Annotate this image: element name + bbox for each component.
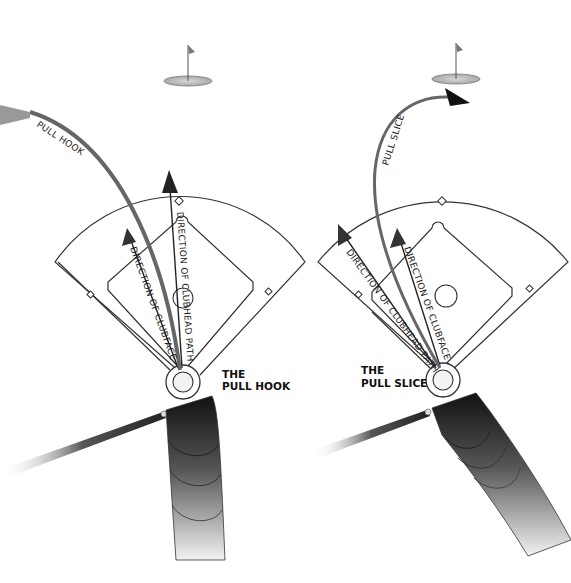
panel-title-line2: PULL HOOK [222,380,291,392]
panel-title-line2: PULL SLICE [361,377,427,389]
pull-slice-panel: PULL SLICE DIRECTION OF CLUBFACE DIRECTI… [313,43,571,556]
golf-club-icon [313,393,571,556]
clubhead-path-label: DIRECTION OF CLUBHEAD PATH [175,211,195,361]
panel-title-line1: THE [222,368,245,380]
golf-club-icon [0,396,225,560]
ball-flight-curve [0,105,180,370]
golf-shot-diagram: PULL HOOK DIRECTION OF CLUBFACE DIRECTIO… [0,0,571,583]
panel-title-line1: THE [361,364,384,376]
baseball-field-outline [318,197,568,397]
flag-green-icon [432,43,480,84]
pull-hook-panel: PULL HOOK DIRECTION OF CLUBFACE DIRECTIO… [0,45,305,560]
flight-label: PULL SLICE [380,113,406,167]
flag-green-icon [164,45,212,86]
